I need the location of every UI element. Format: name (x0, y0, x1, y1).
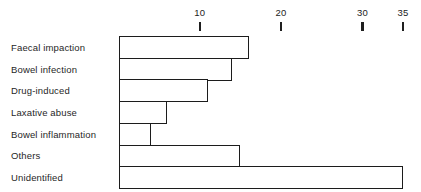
category-label: Laxative abuse (0, 106, 113, 117)
category-label: Faecal impaction (0, 41, 113, 52)
category-labels: Faecal impactionBowel infectionDrug-indu… (0, 0, 421, 192)
category-label: Bowel inflammation (0, 128, 113, 139)
category-label: Others (0, 150, 113, 161)
category-label: Drug-induced (0, 85, 113, 96)
category-label: Unidentified (0, 172, 113, 183)
category-label: Bowel infection (0, 63, 113, 74)
bar-chart: 10203035 Faecal impactionBowel infection… (0, 0, 421, 192)
